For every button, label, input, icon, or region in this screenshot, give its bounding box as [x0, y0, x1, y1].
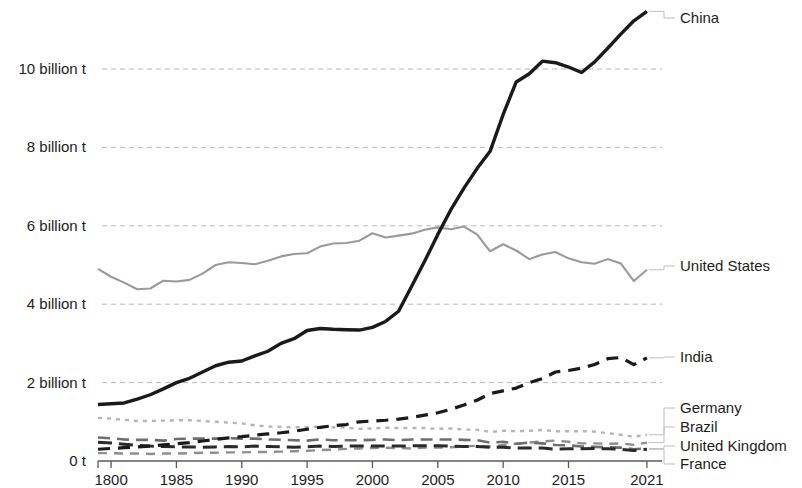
series-label-united-kingdom[interactable]: United Kingdom — [680, 437, 787, 454]
x-tick-label: 2005 — [421, 471, 454, 488]
series-label-china[interactable]: China — [680, 9, 720, 26]
chart-container: 0 t2 billion t4 billion t6 billion t8 bi… — [0, 0, 802, 488]
x-tick-label: 2021 — [630, 471, 663, 488]
emissions-line-chart: 0 t2 billion t4 billion t6 billion t8 bi… — [0, 0, 802, 488]
y-tick-label: 2 billion t — [27, 374, 87, 391]
x-tick-label: 2010 — [486, 471, 519, 488]
series-label-brazil[interactable]: Brazil — [680, 418, 718, 435]
x-tick-label: 1985 — [160, 471, 193, 488]
y-tick-label: 0 t — [69, 452, 87, 469]
y-tick-label: 4 billion t — [27, 295, 87, 312]
series-label-germany[interactable]: Germany — [680, 399, 742, 416]
y-tick-label: 6 billion t — [27, 217, 87, 234]
series-label-france[interactable]: France — [680, 455, 727, 472]
y-tick-label: 10 billion t — [18, 60, 86, 77]
x-tick-label: 1800 — [94, 471, 127, 488]
x-tick-label: 1995 — [290, 471, 323, 488]
x-tick-label: 2015 — [552, 471, 585, 488]
y-tick-label: 8 billion t — [27, 138, 87, 155]
series-label-india[interactable]: India — [680, 348, 713, 365]
x-tick-labels-group: 180019851990199520002005201020152021 — [94, 471, 663, 488]
x-tick-label: 2000 — [356, 471, 389, 488]
series-label-united-states[interactable]: United States — [680, 257, 770, 274]
x-tick-label: 1990 — [225, 471, 258, 488]
